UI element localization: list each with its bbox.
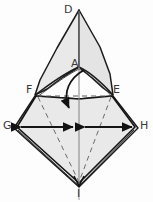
label-right-mid: E	[113, 84, 120, 95]
origami-figure	[0, 0, 153, 202]
upper-right-panel	[79, 10, 113, 95]
lower-diamond-face	[17, 96, 135, 183]
label-inner-vertex: A	[71, 58, 79, 69]
label-left-mid: F	[26, 84, 32, 95]
lower-diamond-group	[14, 96, 138, 187]
label-apex-bottom: I	[77, 188, 80, 199]
diagram-canvas: D A F E G H I	[0, 0, 153, 202]
label-right-outer: H	[140, 120, 148, 131]
label-left-outer: G	[3, 120, 12, 131]
label-apex-top: D	[64, 4, 72, 15]
upper-flap-group	[35, 10, 113, 97]
